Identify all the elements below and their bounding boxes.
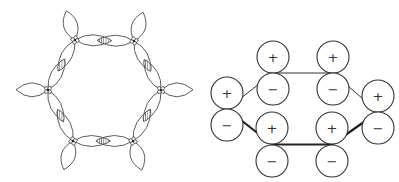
sigma-framework-hexagon [16,11,193,170]
p-orbital-far-right: +− [362,80,394,144]
sigma-bond-3 [73,136,133,147]
atom-center-4 [61,137,77,170]
nucleus-dot [74,39,76,41]
minus-sign: − [373,121,384,136]
nucleus-dot [133,40,135,42]
outer-lobe [16,83,48,97]
sigma-bond-2 [133,90,161,141]
plus-sign: + [327,121,338,136]
outer-lobe [161,83,193,97]
orbital-diagram-canvas: +−+−+−+−+−+− [0,0,399,182]
atom-center-2 [158,83,193,97]
plus-sign: + [268,50,279,65]
plus-sign: + [267,121,278,136]
p-orbital-ring: +−+−+−+−+−+− [211,41,394,177]
p-orbital-far-left: +− [211,77,243,141]
orbital-figure: +−+−+−+−+−+− [0,0,399,182]
minus-sign: − [268,82,279,97]
minus-sign: − [328,82,339,97]
atom-center-5 [16,83,51,97]
atom-center-3 [129,137,145,170]
sigma-bond-4 [48,90,73,141]
plus-sign: + [222,86,233,101]
plus-sign: + [373,89,384,104]
minus-sign: − [267,154,278,169]
sigma-bond-1 [134,41,161,90]
nucleus-dot [160,89,162,91]
atom-center-0 [63,11,79,44]
nucleus-dot [132,140,134,142]
plus-sign: + [328,50,339,65]
minus-sign: − [222,118,233,133]
nucleus-dot [47,89,49,91]
sigma-bond-0 [75,35,134,46]
sigma-bond-5 [48,40,75,90]
nucleus-dot [72,140,74,142]
minus-sign: − [327,154,338,169]
atom-center-1 [130,12,146,45]
